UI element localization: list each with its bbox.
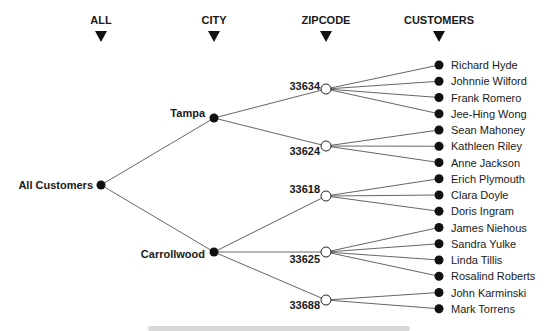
header-city: CITY xyxy=(201,14,227,26)
city-label: Tampa xyxy=(170,107,206,119)
edge xyxy=(326,293,439,301)
header-customers: CUSTOMERS xyxy=(404,14,474,26)
edge xyxy=(326,146,439,163)
customer-label: Frank Romero xyxy=(451,92,521,104)
zipcode-node xyxy=(321,191,331,201)
caption-cutoff xyxy=(148,326,410,331)
nodes: All CustomersTampaCarrollwood33634336243… xyxy=(18,59,535,315)
edge xyxy=(326,196,439,211)
header-zipcode: ZIPCODE xyxy=(302,14,351,26)
customer-label: Mark Torrens xyxy=(451,303,515,315)
header-all: ALL xyxy=(90,14,112,26)
city-node xyxy=(210,248,219,257)
city-node xyxy=(210,114,219,123)
edge xyxy=(326,130,439,146)
customer-label: Kathleen Riley xyxy=(451,140,522,152)
customer-label: Clara Doyle xyxy=(451,189,508,201)
edge xyxy=(214,118,326,146)
customer-hierarchy-diagram: ALLCITYZIPCODECUSTOMERS All CustomersTam… xyxy=(0,0,550,331)
customer-node xyxy=(435,93,444,102)
customer-label: Rosalind Roberts xyxy=(451,270,536,282)
customer-node xyxy=(435,109,444,118)
edge xyxy=(326,195,439,196)
customer-label: Richard Hyde xyxy=(451,59,518,71)
edge xyxy=(101,118,214,185)
edge xyxy=(214,196,326,252)
edge xyxy=(326,89,439,98)
city-label: Carrollwood xyxy=(141,248,205,260)
customer-node xyxy=(435,288,444,297)
customer-node xyxy=(435,304,444,313)
zipcode-node xyxy=(321,247,331,257)
zipcode-node xyxy=(321,84,331,94)
edge xyxy=(326,89,439,114)
customer-node xyxy=(435,77,444,86)
customer-label: Jee-Hing Wong xyxy=(451,108,527,120)
customer-label: Sean Mahoney xyxy=(451,124,525,136)
level-headers: ALLCITYZIPCODECUSTOMERS xyxy=(90,14,474,42)
root-label: All Customers xyxy=(18,179,93,191)
customer-label: Doris Ingram xyxy=(451,205,514,217)
customer-node xyxy=(435,174,444,183)
zipcode-label: 33688 xyxy=(289,299,320,311)
edge xyxy=(214,89,326,118)
edge xyxy=(101,185,214,252)
customer-node xyxy=(435,142,444,151)
customer-label: Anne Jackson xyxy=(451,157,520,169)
customer-node xyxy=(435,223,444,232)
zipcode-label: 33634 xyxy=(289,80,320,92)
customer-label: James Niehous xyxy=(451,222,527,234)
customer-label: Erich Plymouth xyxy=(451,173,525,185)
customer-node xyxy=(435,61,444,70)
customer-node xyxy=(435,158,444,167)
down-triangle-icon xyxy=(95,31,107,42)
customer-node xyxy=(435,272,444,281)
edges xyxy=(101,65,439,309)
customer-node xyxy=(435,191,444,200)
customer-node xyxy=(435,207,444,216)
hierarchy-tree: ALLCITYZIPCODECUSTOMERS All CustomersTam… xyxy=(0,0,550,331)
zipcode-label: 33624 xyxy=(289,145,320,157)
root-node xyxy=(97,181,106,190)
edge xyxy=(326,300,439,309)
down-triangle-icon xyxy=(208,31,220,42)
customer-label: Johnnie Wilford xyxy=(451,75,527,87)
zipcode-node xyxy=(321,295,331,305)
down-triangle-icon xyxy=(433,31,445,42)
customer-label: Sandra Yulke xyxy=(451,238,516,250)
customer-label: Linda Tillis xyxy=(451,254,503,266)
zipcode-label: 33618 xyxy=(289,183,320,195)
figure-caption xyxy=(148,326,410,331)
customer-node xyxy=(435,239,444,248)
edge xyxy=(326,179,439,196)
down-triangle-icon xyxy=(320,31,332,42)
zipcode-label: 33625 xyxy=(289,253,320,265)
customer-node xyxy=(435,256,444,265)
customer-node xyxy=(435,126,444,135)
customer-label: John Karminski xyxy=(451,287,526,299)
zipcode-node xyxy=(321,141,331,151)
